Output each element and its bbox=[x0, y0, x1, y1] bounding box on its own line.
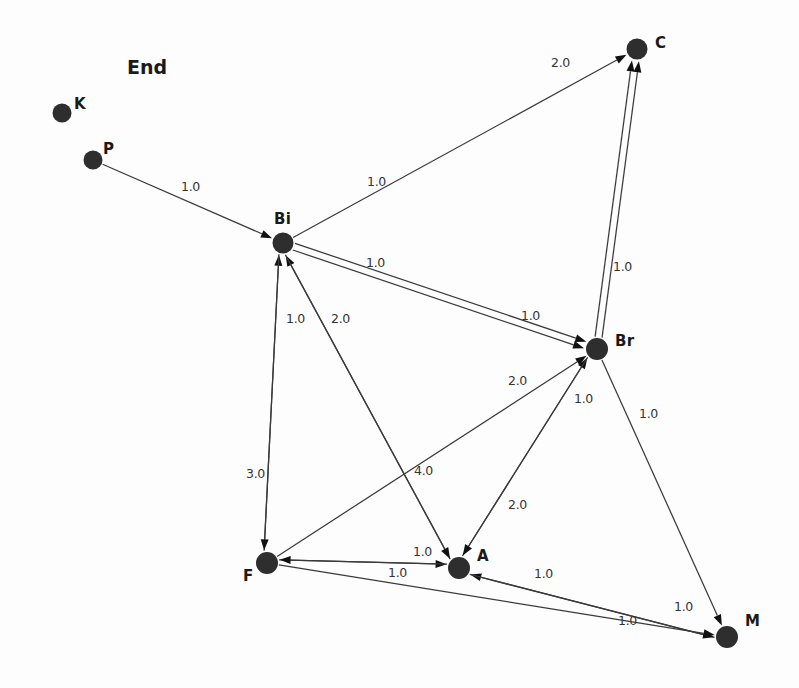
graph-node-br[interactable] bbox=[586, 338, 608, 360]
edge-weight-label: 4.0 bbox=[414, 465, 433, 478]
graph-svg bbox=[0, 0, 799, 688]
edge-weight-label: 1.0 bbox=[367, 176, 386, 189]
diagram-annotation: End bbox=[127, 58, 167, 77]
edge-line-br-to-c bbox=[602, 72, 637, 337]
edge-arrowhead-bi-to-br bbox=[575, 334, 587, 342]
edge-arrowhead-bi-to-a bbox=[441, 547, 450, 559]
edge-line-br-to-c bbox=[595, 71, 630, 336]
edge-weight-label: 2.0 bbox=[508, 499, 527, 512]
edge-line-bi-to-f bbox=[265, 254, 279, 539]
edge-line-bi-to-a bbox=[285, 255, 444, 549]
edge-arrowhead-br-to-c bbox=[633, 61, 641, 72]
edge-arrowhead-br-to-c bbox=[627, 60, 635, 71]
graph-node-label-m: M bbox=[745, 614, 760, 629]
edge-weight-label: 1.0 bbox=[639, 408, 658, 421]
graph-node-f[interactable] bbox=[256, 552, 278, 574]
edge-line-br-to-a bbox=[469, 357, 588, 546]
graph-node-label-a: A bbox=[477, 549, 489, 564]
edge-line-p-to-bi bbox=[103, 164, 262, 234]
graph-node-bi[interactable] bbox=[273, 233, 294, 254]
edge-arrowhead-br-to-m bbox=[714, 614, 722, 626]
graph-node-label-p: P bbox=[103, 142, 114, 157]
graph-diagram-canvas: 1.01.02.01.01.01.01.02.03.04.02.01.01.02… bbox=[0, 0, 799, 688]
edge-line-br-to-m bbox=[602, 360, 717, 616]
edge-weight-label: 2.0 bbox=[551, 57, 570, 70]
edge-weight-label: 1.0 bbox=[574, 393, 593, 406]
edge-weight-label: 1.0 bbox=[366, 257, 385, 270]
edge-weight-label: 2.0 bbox=[331, 313, 350, 326]
graph-node-p[interactable] bbox=[84, 151, 103, 170]
edge-weight-label: 1.0 bbox=[413, 546, 432, 559]
graph-node-label-f: F bbox=[243, 569, 253, 584]
edge-arrowhead-br-to-a bbox=[463, 544, 472, 555]
edge-weight-label: 3.0 bbox=[246, 468, 265, 481]
edge-line-bi-to-br bbox=[293, 250, 574, 345]
edge-weight-label: 1.0 bbox=[534, 568, 553, 581]
edge-arrowhead-bi-to-f bbox=[261, 539, 269, 550]
edge-weight-label: 1.0 bbox=[388, 567, 407, 580]
edge-weight-label: 1.0 bbox=[181, 181, 200, 194]
edge-weight-label: 1.0 bbox=[674, 601, 693, 614]
graph-node-c[interactable] bbox=[627, 39, 648, 60]
edge-weight-label: 1.0 bbox=[521, 310, 540, 323]
edge-weight-label: 2.0 bbox=[508, 375, 527, 388]
graph-node-label-k: K bbox=[74, 97, 86, 112]
edge-weight-label: 1.0 bbox=[286, 313, 305, 326]
edge-line-a-to-m bbox=[470, 574, 704, 634]
edge-arrowhead-p-to-bi bbox=[260, 230, 272, 238]
edge-line-bi-to-c bbox=[293, 60, 617, 237]
graph-node-m[interactable] bbox=[716, 626, 738, 648]
edge-line-f-to-br bbox=[277, 362, 577, 557]
nodes-layer bbox=[53, 39, 739, 649]
edge-weight-label: 1.0 bbox=[613, 261, 632, 274]
edge-line-f-to-m bbox=[279, 565, 704, 633]
graph-node-label-br: Br bbox=[615, 334, 634, 349]
edge-arrowhead-a-to-f bbox=[280, 556, 291, 564]
edge-arrowhead-f-to-m bbox=[703, 629, 715, 637]
graph-node-label-c: C bbox=[655, 36, 666, 51]
graph-node-a[interactable] bbox=[448, 557, 470, 579]
graph-node-k[interactable] bbox=[53, 104, 72, 123]
edge-arrowhead-bi-to-br bbox=[572, 341, 584, 349]
edge-line-a-to-f bbox=[291, 560, 448, 564]
graph-node-label-bi: Bi bbox=[274, 212, 291, 227]
edge-weight-label: 1.0 bbox=[618, 615, 637, 628]
edge-arrowhead-bi-to-c bbox=[615, 55, 627, 64]
